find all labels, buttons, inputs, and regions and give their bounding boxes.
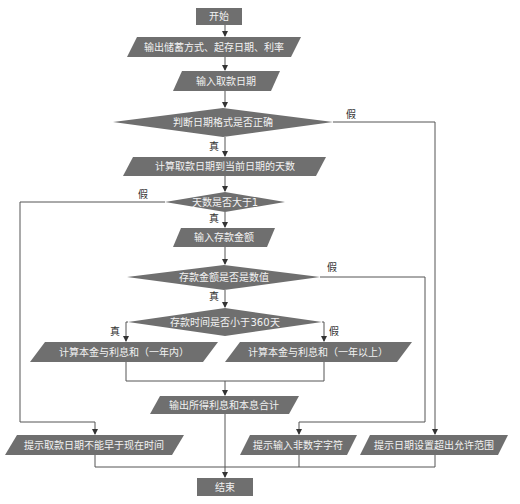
node-warn-date-range: 提示日期设置超出允许范围 <box>360 435 508 455</box>
node-check-date-format: 判断日期格式是否正确 <box>113 108 333 137</box>
svg-text:开始: 开始 <box>209 10 229 22</box>
node-input-withdraw-date: 输入取款日期 <box>173 71 280 91</box>
edge-label-format-true: 真 <box>209 140 219 152</box>
svg-text:计算本金与利息和（一年内）: 计算本金与利息和（一年内） <box>59 346 189 358</box>
node-warn-date-early: 提示取款日期不能早于现在时间 <box>5 435 184 455</box>
svg-text:天数是否大于1: 天数是否大于1 <box>192 196 258 208</box>
svg-text:提示取款日期不能早于现在时间: 提示取款日期不能早于现在时间 <box>24 439 164 451</box>
node-warn-non-numeric: 提示输入非数字字符 <box>240 435 357 455</box>
node-end: 结束 <box>197 478 253 496</box>
svg-text:输出所得利息和本息合计: 输出所得利息和本息合计 <box>169 399 279 411</box>
node-calc-over-year: 计算本金与利息和（一年以上） <box>225 342 412 362</box>
edge-label-days-true: 真 <box>209 212 219 224</box>
node-check-days: 天数是否大于1 <box>165 192 285 212</box>
flowchart: 开始 输出储蓄方式、起存日期、利率 输入取款日期 判断日期格式是否正确 计算取款… <box>0 0 520 504</box>
svg-text:输入取款日期: 输入取款日期 <box>196 75 256 87</box>
edge-label-under360-false: 假 <box>329 325 339 337</box>
edge-label-amount-false: 假 <box>327 261 337 273</box>
svg-text:输出储蓄方式、起存日期、利率: 输出储蓄方式、起存日期、利率 <box>144 41 284 53</box>
svg-text:计算本金与利息和（一年以上）: 计算本金与利息和（一年以上） <box>248 346 388 358</box>
edge-label-format-false: 假 <box>346 108 356 120</box>
edge-label-days-false: 假 <box>138 188 148 200</box>
edge-label-amount-true: 真 <box>209 290 219 302</box>
svg-text:输入存款金额: 输入存款金额 <box>194 231 254 243</box>
node-check-under-360: 存款时间是否小于360天 <box>128 308 322 336</box>
svg-text:判断日期格式是否正确: 判断日期格式是否正确 <box>173 116 273 128</box>
svg-text:计算取款日期到当前日期的天数: 计算取款日期到当前日期的天数 <box>155 160 295 172</box>
node-check-amount-numeric: 存款金额是否是数值 <box>127 265 320 290</box>
svg-text:提示输入非数字字符: 提示输入非数字字符 <box>253 439 343 451</box>
node-calc-within-year: 计算本金与利息和（一年内） <box>30 342 218 362</box>
node-start: 开始 <box>196 8 242 25</box>
node-output-info: 输出储蓄方式、起存日期、利率 <box>127 37 301 57</box>
edge-labels: 假 真 假 真 假 真 真 假 <box>110 108 356 337</box>
node-calc-days: 计算取款日期到当前日期的天数 <box>123 157 326 176</box>
svg-text:提示日期设置超出允许范围: 提示日期设置超出允许范围 <box>374 439 494 451</box>
node-output-total: 输出所得利息和本息合计 <box>150 396 299 414</box>
node-input-amount: 输入存款金额 <box>173 228 275 247</box>
svg-text:存款时间是否小于360天: 存款时间是否小于360天 <box>170 316 279 328</box>
svg-text:存款金额是否是数值: 存款金额是否是数值 <box>179 271 269 283</box>
svg-text:结束: 结束 <box>215 481 235 493</box>
edge-label-under360-true: 真 <box>110 325 120 337</box>
